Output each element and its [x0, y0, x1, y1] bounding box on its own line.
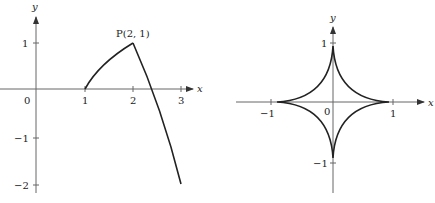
right-x-axis-label: x: [428, 97, 434, 108]
left-x-tick-label-2: 2: [130, 95, 136, 106]
left-x-tick-label-1: 1: [82, 95, 88, 106]
figure-canvas: y x 0 1 2 3 1 −1 −2 P(2, 1) y x 0 −1 1 1…: [0, 0, 435, 203]
right-y-tick-label-neg1: −1: [313, 158, 328, 169]
point-label: P(2, 1): [116, 28, 150, 39]
right-y-tick-label-1: 1: [321, 38, 327, 49]
left-y-tick-label-1: 1: [22, 38, 28, 49]
left-origin-label: 0: [24, 95, 30, 106]
right-chart: y x 0 −1 1 1 −1: [236, 12, 434, 193]
right-x-tick-label-1: 1: [390, 108, 396, 119]
right-origin-label: 0: [324, 106, 330, 117]
right-x-tick-label-neg1: −1: [260, 108, 275, 119]
left-x-tick-label-3: 3: [178, 95, 184, 106]
left-curve-rising: [85, 43, 133, 89]
left-y-axis-label: y: [31, 1, 38, 12]
left-y-tick-label-neg1: −1: [14, 133, 29, 144]
right-y-axis-label: y: [329, 12, 336, 23]
left-curve-falling: [133, 43, 181, 184]
left-chart: y x 0 1 2 3 1 −1 −2 P(2, 1): [0, 1, 203, 193]
left-x-axis-label: x: [197, 83, 203, 94]
left-y-tick-label-neg2: −2: [14, 180, 29, 191]
